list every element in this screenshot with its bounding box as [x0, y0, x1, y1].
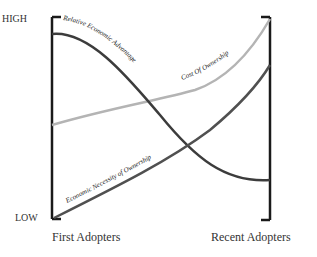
rea-label: Relative Economic Advantage: [62, 14, 138, 64]
adoption-diagram: Relative Economic Advantage Cost Of Owne…: [0, 0, 317, 257]
right-axis: [261, 17, 270, 220]
high-label: HIGH: [2, 13, 27, 24]
low-label: LOW: [15, 212, 38, 223]
eno-label: Economic Necessity of Ownership: [64, 153, 154, 205]
left-axis: [52, 17, 61, 219]
cost-of-ownership-curve: [52, 19, 270, 125]
first-adopters-label: First Adopters: [52, 230, 121, 244]
cost-label: Cost Of Ownership: [180, 48, 231, 81]
recent-adopters-label: Recent Adopters: [211, 230, 291, 244]
